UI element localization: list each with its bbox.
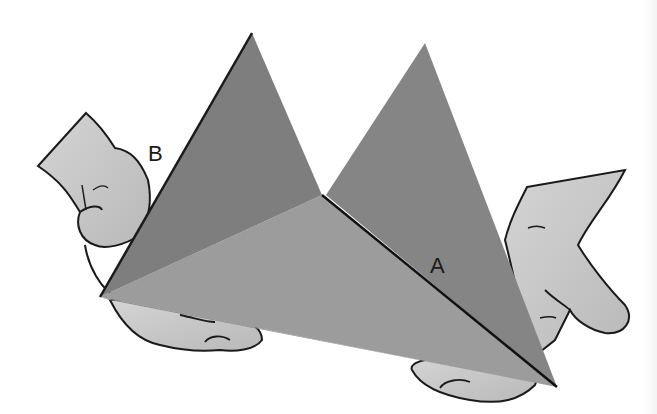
label-a: A	[430, 253, 445, 278]
diagram-canvas: B A	[0, 0, 657, 414]
label-b: B	[148, 141, 163, 166]
right-edge-shadow	[643, 0, 657, 414]
folded-paper-illustration: B A	[0, 0, 657, 414]
